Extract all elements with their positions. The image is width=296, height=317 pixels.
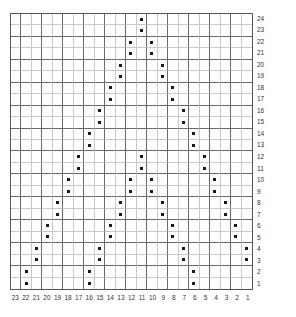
data-point-marker <box>150 52 153 55</box>
grid-cell <box>231 266 241 277</box>
data-point-marker <box>98 258 101 261</box>
data-point-marker <box>98 247 101 250</box>
grid-cell <box>116 140 126 151</box>
x-axis-tick-label: 22 <box>21 293 32 307</box>
grid-cell <box>200 209 210 220</box>
grid-cell <box>168 71 178 82</box>
x-axis-tick-label: 5 <box>200 293 211 307</box>
grid-cell <box>105 232 115 243</box>
grid-cell <box>63 94 73 105</box>
y-axis-tick-label: 22 <box>256 36 284 48</box>
grid-cell <box>189 83 199 94</box>
grid-cell <box>53 186 63 197</box>
grid-cell <box>63 83 73 94</box>
grid-cell <box>126 37 136 48</box>
grid-cell <box>189 197 199 208</box>
grid-cell <box>116 220 126 231</box>
grid-cell <box>210 60 220 71</box>
grid-cell <box>11 220 21 231</box>
grid-cell <box>137 14 147 25</box>
grid-cell <box>179 232 189 243</box>
x-axis-tick-label: 15 <box>95 293 106 307</box>
grid-cell <box>210 163 220 174</box>
grid-cell <box>200 14 210 25</box>
grid-cell <box>74 209 84 220</box>
grid-cell <box>126 220 136 231</box>
grid-cell <box>105 197 115 208</box>
data-point-marker <box>56 213 59 216</box>
grid-cell <box>116 186 126 197</box>
data-point-marker <box>67 190 70 193</box>
grid-cell <box>231 197 241 208</box>
grid-cell <box>42 278 52 289</box>
grid-cell <box>84 83 94 94</box>
grid-cell <box>231 151 241 162</box>
grid-cell <box>11 117 21 128</box>
grid-cell <box>158 83 168 94</box>
grid-cell <box>168 255 178 266</box>
data-point-marker <box>119 75 122 78</box>
grid-cell <box>21 209 31 220</box>
grid-cell <box>200 94 210 105</box>
grid-cell <box>137 209 147 220</box>
data-point-marker <box>98 109 101 112</box>
grid-cell <box>210 266 220 277</box>
grid-cell <box>137 71 147 82</box>
grid-cell <box>32 186 42 197</box>
grid-cell <box>168 14 178 25</box>
grid-cell <box>179 243 189 254</box>
grid-cell <box>74 255 84 266</box>
data-point-marker <box>35 258 38 261</box>
grid-cell <box>53 94 63 105</box>
grid-cell <box>21 243 31 254</box>
grid-cell <box>231 14 241 25</box>
grid-cell <box>105 255 115 266</box>
grid-cell <box>21 71 31 82</box>
grid-cell <box>42 83 52 94</box>
grid-cell <box>63 117 73 128</box>
grid-cell <box>179 209 189 220</box>
grid-cell <box>189 117 199 128</box>
data-point-marker <box>171 235 174 238</box>
grid-cell <box>137 174 147 185</box>
data-point-marker <box>119 213 122 216</box>
data-point-marker <box>119 64 122 67</box>
grid-cell <box>200 255 210 266</box>
grid-cell <box>42 14 52 25</box>
grid-cell <box>126 278 136 289</box>
grid-cell <box>53 220 63 231</box>
grid-cell <box>95 117 105 128</box>
grid-cell <box>221 255 231 266</box>
grid-cell <box>189 278 199 289</box>
grid-cell <box>11 140 21 151</box>
grid-cell <box>126 25 136 36</box>
grid-cell <box>32 209 42 220</box>
grid-cell <box>11 25 21 36</box>
grid-cell <box>200 186 210 197</box>
grid-cell <box>231 278 241 289</box>
grid-cell <box>158 117 168 128</box>
grid-cell <box>116 14 126 25</box>
grid-cell <box>210 278 220 289</box>
grid-cell <box>210 209 220 220</box>
x-axis-tick-label: 6 <box>190 293 201 307</box>
grid-cell <box>242 186 252 197</box>
grid-cell <box>32 232 42 243</box>
grid-cell <box>42 232 52 243</box>
grid-cell <box>53 129 63 140</box>
grid-cell <box>242 25 252 36</box>
grid-cell <box>168 278 178 289</box>
grid-cell <box>168 37 178 48</box>
grid-cell <box>11 232 21 243</box>
grid-cell <box>42 266 52 277</box>
grid-cell <box>242 37 252 48</box>
grid-cell <box>105 83 115 94</box>
grid-cell <box>231 25 241 36</box>
grid-cell <box>221 232 231 243</box>
grid-cell <box>42 106 52 117</box>
data-point-marker <box>88 132 91 135</box>
grid-cell <box>158 25 168 36</box>
grid-cell <box>147 14 157 25</box>
grid-cell <box>200 163 210 174</box>
grid-cell <box>221 37 231 48</box>
